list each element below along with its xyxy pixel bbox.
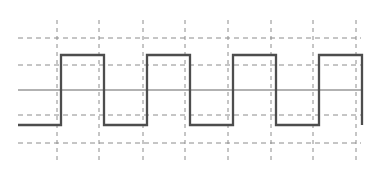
waveform-figure: [0, 0, 379, 177]
square-wave-plot: [0, 0, 379, 177]
